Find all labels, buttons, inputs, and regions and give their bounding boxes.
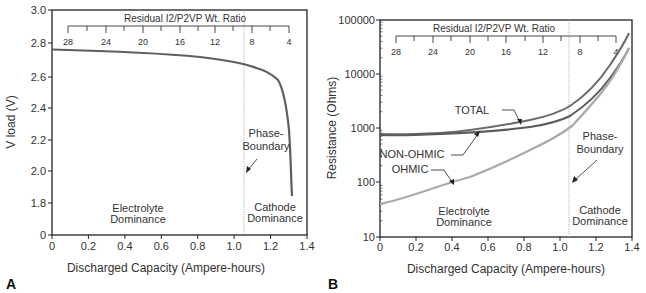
ohmic-curve	[380, 48, 629, 204]
x-tick-label: 0.2	[81, 240, 96, 252]
x-tick-label: 1.2	[263, 240, 278, 252]
x-axis-title-b: Discharged Capacity (Ampere-hours)	[407, 262, 605, 276]
top-tick-label: 12	[210, 37, 220, 47]
top-tick-label: 8	[249, 37, 254, 47]
top-tick-label: 20	[465, 47, 475, 57]
x-tick-label: 1.0	[226, 240, 241, 252]
x-tick-label: 0.6	[154, 240, 169, 252]
top-axis-title-a: Residual I2/P2VP Wt. Ratio	[124, 13, 247, 24]
y-tick-label: 10	[363, 231, 375, 243]
x-tick-label: 1.4	[624, 241, 639, 253]
arrow-head-icon	[572, 176, 578, 183]
top-tick-label: 12	[538, 47, 548, 57]
panel-letter-a: A	[6, 276, 16, 292]
top-axis-b	[396, 36, 616, 43]
total-leader-line	[502, 110, 520, 122]
y-tick-label: 2.6	[31, 71, 46, 83]
panel-letter-b: B	[328, 276, 338, 292]
y-tick-labels-a: 3.0 2.8 2.6 2.4 2.2 2.0 1.8 0	[31, 4, 46, 241]
figure: 3.0 2.8 2.6 2.4 2.2 2.0 1.8 0 0 0.2 0.4 …	[0, 0, 646, 293]
y-axis-title-a: V load (V)	[4, 95, 18, 148]
y-tick-label: 2.2	[31, 134, 46, 146]
phase-arrow-b	[575, 160, 597, 180]
phase-boundary-label-a: Boundary	[242, 140, 290, 152]
y-tick-label: 1000	[351, 122, 375, 134]
cathode-label-a: Dominance	[247, 212, 303, 224]
total-label: TOTAL	[455, 104, 489, 116]
y-tick-label: 0	[40, 229, 46, 241]
x-tick-label: 0	[377, 241, 383, 253]
y-tick-labels-b: 100000 10000 1000 100 10	[338, 14, 375, 243]
x-tick-label: 0.2	[408, 241, 423, 253]
x-tick-label: 0.8	[190, 240, 205, 252]
y-tick-label: 100000	[338, 14, 375, 26]
y-tick-label: 100	[357, 176, 375, 188]
top-tick-label: 8	[577, 47, 582, 57]
x-tick-label: 1.0	[552, 241, 567, 253]
top-axis-a	[68, 26, 289, 33]
y-tick-label: 10000	[344, 68, 375, 80]
y-tick-label: 2.4	[31, 102, 46, 114]
y-tick-label: 2.8	[31, 37, 46, 49]
electrolyte-label-a: Dominance	[110, 213, 166, 225]
x-tick-label: 0.4	[117, 240, 132, 252]
x-tick-label: 0.6	[480, 241, 495, 253]
x-tick-label: 0.8	[516, 241, 531, 253]
electrolyte-label-b: Dominance	[436, 216, 492, 228]
y-tick-label: 3.0	[31, 4, 46, 16]
top-tick-label: 24	[101, 37, 111, 47]
top-tick-label: 24	[428, 47, 438, 57]
top-tick-labels-a: 28 24 20 16 12 8 4	[63, 37, 292, 47]
phase-boundary-label-a: Phase-	[249, 127, 284, 139]
top-axis-title-b: Residual I2/P2VP Wt. Ratio	[433, 23, 556, 34]
phase-boundary-label-b: Phase-	[583, 130, 618, 142]
panel-b: 100000 10000 1000 100 10 0 0.2 0.4 0.6 0…	[325, 14, 640, 292]
x-tick-label: 1.2	[588, 241, 603, 253]
non-ohmic-curve	[380, 48, 629, 135]
top-tick-label: 4	[286, 37, 291, 47]
x-tick-labels-b: 0 0.2 0.4 0.6 0.8 1.0 1.2 1.4	[377, 241, 640, 253]
x-tick-label: 1.4	[299, 240, 314, 252]
top-tick-labels-b: 28 24 20 16 12 8 4	[391, 47, 619, 57]
non-ohmic-label: NON-OHMIC	[380, 148, 445, 160]
x-tick-labels-a: 0 0.2 0.4 0.6 0.8 1.0 1.2 1.4	[49, 240, 315, 252]
top-tick-label: 28	[63, 37, 73, 47]
phase-boundary-label-b: Boundary	[576, 143, 624, 155]
x-tick-label: 0.4	[444, 241, 459, 253]
y-axis-title-b: Resistance (Ohms)	[325, 77, 339, 180]
ohmic-label: OHMIC	[392, 163, 429, 175]
top-tick-label: 16	[175, 37, 185, 47]
vload-curve	[52, 50, 292, 197]
y-tick-label: 1.8	[31, 197, 46, 209]
y-tick-label: 2.0	[31, 165, 46, 177]
panel-a: 3.0 2.8 2.6 2.4 2.2 2.0 1.8 0 0 0.2 0.4 …	[4, 4, 315, 292]
x-axis-title-a: Discharged Capacity (Ampere-hours)	[67, 261, 265, 275]
cathode-label-b: Dominance	[572, 215, 628, 227]
non-ohmic-leader-line	[451, 134, 478, 155]
x-tick-label: 0	[49, 240, 55, 252]
top-tick-label: 16	[501, 47, 511, 57]
top-tick-label: 20	[138, 37, 148, 47]
top-tick-label: 28	[391, 47, 401, 57]
ohmic-leader-line	[431, 170, 452, 182]
